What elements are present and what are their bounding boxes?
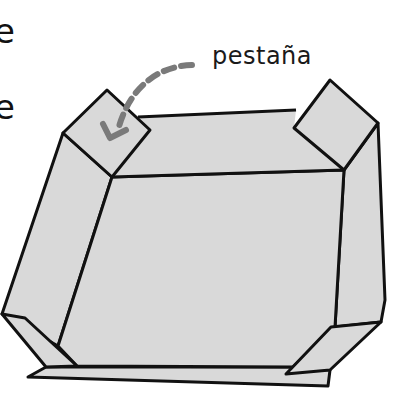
box-diagram: e e pestaña [0,0,393,416]
box-net-drawing [0,0,393,416]
front-strip [28,367,330,386]
